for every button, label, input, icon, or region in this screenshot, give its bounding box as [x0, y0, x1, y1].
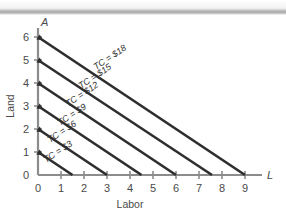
figure-root: 0 1 2 3 4 5 6 0 1 2 3 4 5 6 7 8 9 A L La…	[0, 0, 286, 215]
y-ticklabel-4: 4	[23, 77, 29, 89]
y-ticklabel-1: 1	[23, 146, 29, 158]
x-ticklabel-7: 7	[196, 182, 202, 194]
y-ticklabel-3: 3	[23, 100, 29, 112]
x-ticklabel-2: 2	[81, 182, 87, 194]
x-ticklabel-8: 8	[219, 182, 225, 194]
y-ticklabel-6: 6	[23, 31, 29, 43]
x-ticklabel-5: 5	[150, 182, 156, 194]
y-ticklabel-2: 2	[23, 123, 29, 135]
x-ticklabel-1: 1	[58, 182, 64, 194]
y-ticklabel-5: 5	[23, 54, 29, 66]
y-axis-title: Land	[4, 94, 16, 118]
x-axis-symbol-label: L	[267, 169, 273, 181]
isocost-chart: 0 1 2 3 4 5 6 0 1 2 3 4 5 6 7 8 9 A L La…	[0, 0, 286, 215]
x-axis-title: Labor	[117, 198, 144, 210]
x-ticklabel-3: 3	[104, 182, 110, 194]
x-ticklabel-4: 4	[127, 182, 133, 194]
y-ticklabel-0: 0	[23, 169, 29, 181]
x-ticklabel-6: 6	[173, 182, 179, 194]
x-ticklabel-0: 0	[35, 182, 41, 194]
y-axis-symbol-label: A	[40, 16, 48, 28]
x-ticklabel-9: 9	[242, 182, 248, 194]
